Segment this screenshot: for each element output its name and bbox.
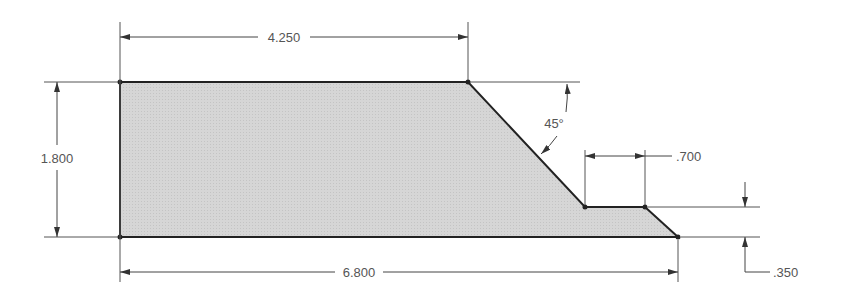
dim-step-length-label: .700: [676, 149, 701, 164]
dim-step-height: [745, 182, 770, 272]
dim-top-length-label: 4.250: [268, 30, 301, 45]
drawing-canvas: 4.250 1.800 45° .700 .350 6.800: [0, 0, 847, 298]
dim-step-height-label: .350: [773, 265, 798, 280]
part-profile: [120, 82, 678, 237]
dim-height-label: 1.800: [41, 151, 74, 166]
dim-overall-length-label: 6.800: [343, 265, 376, 280]
dim-angle-label: 45°: [544, 116, 564, 131]
